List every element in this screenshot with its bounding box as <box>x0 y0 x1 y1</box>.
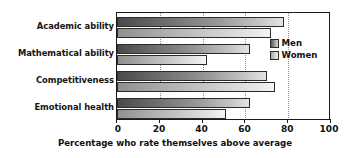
x-tick-label-0: 0 <box>115 124 121 134</box>
bar-women-mathematical-ability <box>117 55 207 65</box>
x-tick-20 <box>159 119 160 123</box>
category-label-mathematical-ability: Mathematical ability <box>0 48 114 58</box>
x-tick-label-60: 60 <box>238 124 251 134</box>
x-axis-line <box>116 119 330 120</box>
x-tick-100 <box>330 119 331 123</box>
bar-chart-figure: Academic ability Mathematical ability Co… <box>0 0 350 158</box>
bar-men-competitiveness <box>117 71 267 81</box>
legend-item-women: Women <box>270 50 317 61</box>
bar-men-emotional-health <box>117 98 250 108</box>
gridline-80 <box>288 13 289 120</box>
x-tick-label-20: 20 <box>153 124 166 134</box>
x-tick-label-80: 80 <box>281 124 294 134</box>
legend-label-women: Women <box>282 51 318 60</box>
bar-men-academic-ability <box>117 17 284 27</box>
bar-men-mathematical-ability <box>117 44 250 54</box>
x-tick-40 <box>202 119 203 123</box>
chart-legend: Men Women <box>270 38 332 64</box>
x-tick-80 <box>287 119 288 123</box>
x-tick-0 <box>116 119 117 123</box>
bar-women-academic-ability <box>117 28 271 38</box>
legend-label-men: Men <box>282 39 303 48</box>
x-tick-60 <box>244 119 245 123</box>
bar-women-competitiveness <box>117 82 275 92</box>
bar-women-emotional-health <box>117 109 226 119</box>
x-axis-title: Percentage who rate themselves above ave… <box>0 138 350 148</box>
legend-swatch-women-icon <box>270 51 279 60</box>
x-tick-label-40: 40 <box>195 124 208 134</box>
x-tick-label-100: 100 <box>320 124 339 134</box>
category-label-emotional-health: Emotional health <box>0 102 114 112</box>
category-label-competitiveness: Competitiveness <box>0 75 114 85</box>
plot-area <box>116 12 330 120</box>
legend-item-men: Men <box>270 38 302 49</box>
legend-swatch-men-icon <box>270 39 279 48</box>
category-axis-labels: Academic ability Mathematical ability Co… <box>0 12 114 120</box>
category-label-academic-ability: Academic ability <box>0 21 114 31</box>
